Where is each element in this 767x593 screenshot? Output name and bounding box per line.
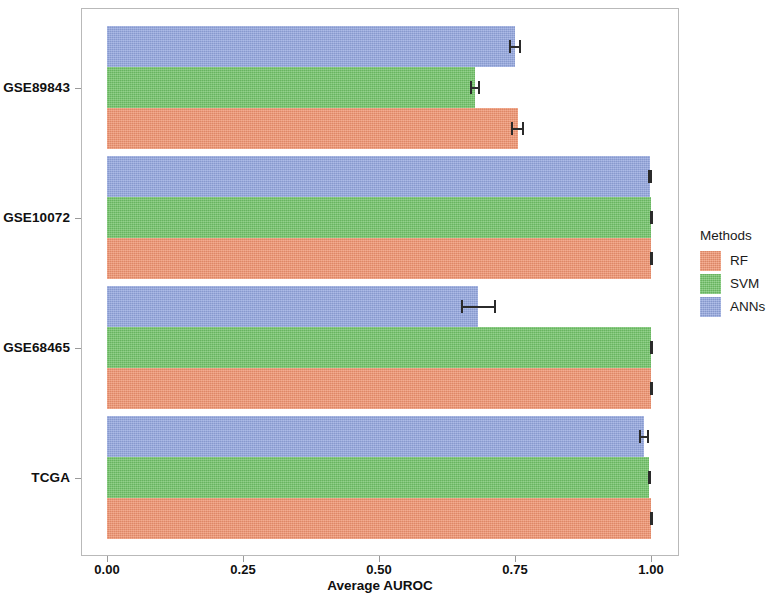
x-tick-label-3: 0.75 <box>502 562 527 577</box>
bar-gse68465-rf <box>107 368 651 409</box>
bar-gse10072-svm <box>107 197 651 238</box>
bar-gse68465-svm <box>107 327 651 368</box>
x-tick-label-1: 0.25 <box>230 562 255 577</box>
x-tick-label-4: 1.00 <box>638 562 663 577</box>
errorbar-tcga-rf <box>650 512 653 525</box>
legend-title: Methods <box>700 228 765 243</box>
bar-gse68465-anns <box>107 286 478 327</box>
errorbar-gse10072-svm <box>650 211 653 224</box>
errorbar-tcga-anns <box>639 430 649 443</box>
y-tick-label-tcga: TCGA <box>0 470 70 485</box>
y-tick-label-gse89843: GSE89843 <box>0 80 70 95</box>
bar-gse89843-svm <box>107 67 475 108</box>
y-tick-mark <box>75 478 81 479</box>
legend-item-anns[interactable]: ANNs <box>700 295 765 318</box>
errorbar-gse89843-rf <box>511 122 524 135</box>
bar-gse10072-anns <box>107 156 650 197</box>
legend-label-rf: RF <box>730 253 748 268</box>
bar-tcga-rf <box>107 498 651 539</box>
x-tick-label-2: 0.50 <box>366 562 391 577</box>
y-tick-label-gse10072: GSE10072 <box>0 210 70 225</box>
legend-item-svm[interactable]: SVM <box>700 272 765 295</box>
legend-swatch-rf <box>700 251 721 271</box>
bar-tcga-anns <box>107 416 644 457</box>
errorbar-tcga-svm <box>648 471 651 484</box>
errorbar-gse10072-anns <box>648 170 652 183</box>
errorbar-gse10072-rf <box>650 252 653 265</box>
x-tick-label-0: 0.00 <box>94 562 119 577</box>
errorbar-gse68465-anns <box>461 300 496 313</box>
y-tick-mark <box>75 218 81 219</box>
y-tick-mark <box>75 88 81 89</box>
legend-label-svm: SVM <box>730 276 759 291</box>
legend: Methods RF SVM ANNs <box>700 228 765 318</box>
errorbar-gse89843-svm <box>470 81 480 94</box>
legend-item-rf[interactable]: RF <box>700 249 765 272</box>
errorbar-gse68465-rf <box>650 382 653 395</box>
errorbar-gse68465-svm <box>650 341 653 354</box>
bar-tcga-svm <box>107 457 649 498</box>
legend-label-anns: ANNs <box>730 299 765 314</box>
legend-swatch-svm <box>700 274 721 294</box>
bar-gse89843-anns <box>107 26 515 67</box>
y-tick-mark <box>75 348 81 349</box>
errorbar-gse89843-anns <box>509 40 521 53</box>
bar-gse89843-rf <box>107 108 518 149</box>
legend-swatch-anns <box>700 297 721 317</box>
bar-gse10072-rf <box>107 238 651 279</box>
y-tick-label-gse68465: GSE68465 <box>0 340 70 355</box>
x-axis-title: Average AUROC <box>327 578 433 593</box>
